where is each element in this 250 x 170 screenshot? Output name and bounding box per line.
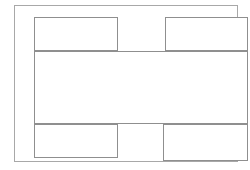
region-center-label <box>35 52 247 56</box>
region-bottom-right-label <box>164 125 247 129</box>
region-bottom-right[interactable] <box>163 124 248 161</box>
region-bottom-left-label <box>35 125 117 129</box>
wireframe-canvas <box>0 0 250 170</box>
page-frame <box>14 5 238 162</box>
region-top-left[interactable] <box>34 17 118 51</box>
region-top-left-label <box>35 18 117 22</box>
region-top-right-label <box>166 18 247 22</box>
region-center[interactable] <box>34 51 248 124</box>
region-bottom-left[interactable] <box>34 124 118 158</box>
region-top-right[interactable] <box>165 17 248 51</box>
